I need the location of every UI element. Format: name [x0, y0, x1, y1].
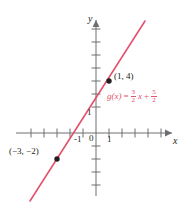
equation-variable: x	[138, 92, 142, 101]
y-axis	[92, 20, 101, 196]
x-axis	[16, 129, 172, 138]
intercept-denominator: 2	[151, 96, 157, 104]
x-axis-label: x	[173, 136, 177, 146]
slope-numerator: 3	[131, 89, 137, 96]
y-axis-label: y	[88, 14, 92, 24]
equation-equals-sign: =	[124, 92, 129, 101]
intercept-fraction: 5 2	[151, 89, 157, 105]
intercept-numerator: 5	[151, 89, 157, 96]
slope-fraction: 3 2	[131, 89, 137, 105]
point-marker-neg3-neg2	[54, 156, 59, 161]
point-marker-1-4	[106, 78, 111, 83]
equation-function-name: g(x)	[107, 92, 122, 101]
x-tick-label-neg1: -1	[74, 135, 82, 144]
x-tick-label-1: 1	[107, 135, 112, 144]
x-axis-arrowhead	[165, 130, 172, 137]
y-axis-arrowhead	[93, 20, 100, 27]
slope-denominator: 2	[131, 96, 137, 104]
point-label-neg3-neg2: (−3, −2)	[9, 147, 39, 156]
y-tick-label-1: 1	[87, 108, 92, 117]
point-label-1-4: (1, 4)	[114, 72, 134, 81]
coordinate-plane-svg	[0, 0, 185, 207]
equation-plus-sign: +	[144, 92, 149, 101]
equation-annotation: g(x) = 3 2 x + 5 2	[107, 89, 157, 105]
origin-label-0: 0	[89, 134, 94, 143]
